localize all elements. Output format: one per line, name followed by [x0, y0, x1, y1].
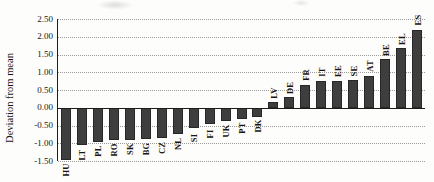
bar-fr: [300, 85, 310, 108]
bar-dk: [252, 108, 262, 117]
bar-se: [348, 80, 358, 108]
y-tick-label: 2.50: [0, 15, 53, 24]
bar-at: [364, 76, 374, 108]
bar-it: [316, 81, 326, 107]
bar-label-pl: PL: [93, 146, 103, 157]
bar-pl: [93, 108, 103, 142]
gridline: [58, 55, 425, 56]
bar-label-ee: EE: [333, 65, 343, 77]
bar-label-bg: BG: [141, 143, 151, 156]
bar-pt: [237, 108, 247, 119]
bar-lt: [77, 108, 87, 146]
y-tick-label: -1.50: [0, 157, 53, 166]
bar-label-si: SI: [189, 134, 199, 142]
bar-label-dk: DK: [253, 120, 263, 133]
gridline: [58, 19, 425, 20]
plot-area: HULTPLROSKBGCZNLSIFIUKPTDKLVDEFRITEESEAT…: [58, 19, 425, 161]
bar-label-it: IT: [317, 67, 327, 76]
bar-label-at: AT: [365, 61, 375, 73]
y-tick-label: 1.00: [0, 68, 53, 77]
bar-label-hu: HU: [61, 163, 71, 176]
x-axis-zero-line: [58, 108, 425, 109]
bar-bg: [141, 108, 151, 140]
bar-label-sk: SK: [125, 143, 135, 155]
y-tick-label: 0.00: [0, 103, 53, 112]
bar-label-fi: FI: [205, 129, 215, 138]
bar-sk: [125, 108, 135, 140]
bar-label-de: DE: [285, 82, 295, 94]
bar-el: [396, 48, 406, 107]
y-tick-label: 1.50: [0, 50, 53, 59]
bar-ee: [332, 81, 342, 108]
bar-label-nl: NL: [173, 138, 183, 150]
bar-label-el: EL: [397, 33, 407, 45]
bar-nl: [173, 108, 183, 135]
bar-es: [412, 30, 422, 108]
bar-de: [284, 97, 294, 107]
bar-label-se: SE: [349, 65, 359, 76]
y-tick-label: 0.50: [0, 86, 53, 95]
bar-label-uk: UK: [221, 124, 231, 137]
gridline: [58, 161, 425, 162]
bar-hu: [61, 108, 71, 161]
y-tick-label: 2.00: [0, 32, 53, 41]
deviation-bar-chart: Deviation from mean HULTPLROSKBGCZNLSIFI…: [0, 0, 434, 182]
bar-label-pt: PT: [237, 123, 247, 134]
bar-cz: [157, 108, 167, 139]
bar-label-cz: CZ: [157, 142, 167, 154]
gridline: [58, 72, 425, 73]
bar-label-lv: LV: [269, 87, 279, 98]
bar-uk: [221, 108, 231, 121]
bar-label-es: ES: [413, 15, 423, 26]
bar-fi: [205, 108, 215, 124]
bar-si: [189, 108, 199, 129]
bar-be: [380, 59, 390, 107]
gridline: [58, 37, 425, 38]
bar-ro: [109, 108, 119, 141]
y-tick-label: -1.00: [0, 139, 53, 148]
y-tick-label: -0.50: [0, 121, 53, 130]
bar-label-fr: FR: [301, 69, 311, 81]
bar-label-lt: LT: [77, 149, 87, 160]
bar-label-be: BE: [381, 44, 391, 56]
bar-label-ro: RO: [109, 143, 119, 156]
